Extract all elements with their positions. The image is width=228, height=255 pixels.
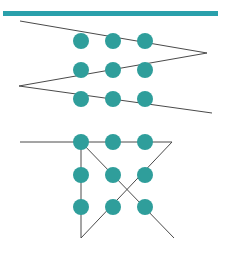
teal-dot xyxy=(105,33,121,49)
teal-dot xyxy=(137,134,153,150)
teal-dot xyxy=(137,199,153,215)
top-teal-bar xyxy=(3,11,218,16)
teal-dot xyxy=(137,62,153,78)
teal-dot xyxy=(73,199,89,215)
lower-figure-dots xyxy=(73,134,153,215)
teal-dot xyxy=(73,167,89,183)
teal-dot xyxy=(105,199,121,215)
figure-canvas xyxy=(0,0,228,255)
teal-dot xyxy=(105,134,121,150)
upper-figure-dots xyxy=(73,33,153,107)
teal-dot xyxy=(137,33,153,49)
teal-dot xyxy=(73,33,89,49)
teal-dot xyxy=(105,167,121,183)
teal-dot xyxy=(73,134,89,150)
teal-dot xyxy=(73,91,89,107)
teal-dot xyxy=(105,62,121,78)
teal-dot xyxy=(73,62,89,78)
teal-dot xyxy=(137,91,153,107)
teal-dot xyxy=(137,167,153,183)
teal-dot xyxy=(105,91,121,107)
